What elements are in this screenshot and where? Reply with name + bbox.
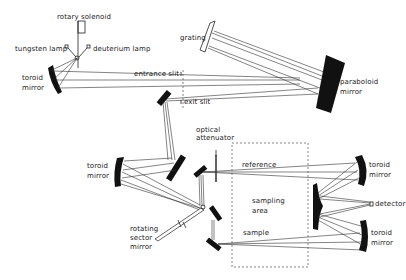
label-left-toroid-1: toroid — [87, 162, 108, 170]
sample-fold-mirror-1 — [209, 205, 222, 221]
label-rotating-sector-3: mirror — [130, 243, 152, 251]
label-rotating-sector-2: sector — [130, 234, 152, 242]
down-rays — [163, 102, 175, 160]
label-optical-attenuator-2: attenuator — [196, 134, 234, 142]
detector-icon — [370, 202, 373, 206]
sample-beam — [218, 233, 362, 250]
label-source-toroid-1: toroid — [22, 74, 43, 82]
label-source-toroid-2: mirror — [22, 84, 44, 92]
label-grating: grating — [180, 34, 206, 42]
fold-mirror — [157, 90, 172, 106]
rotary-solenoid — [78, 21, 85, 68]
label-entrance-slit: entrance slit — [134, 70, 179, 78]
label-paraboloid-1: paraboloid — [340, 78, 378, 86]
label-detector: detector — [375, 200, 405, 208]
label-paraboloid-2: mirror — [340, 88, 362, 96]
reference-fold-mirror — [193, 165, 207, 178]
bottom-right-toroid-mirror — [359, 220, 368, 252]
left-toroid-rays — [121, 158, 203, 210]
slit-marker — [181, 70, 183, 108]
flat-mirror-center — [166, 155, 186, 182]
rotating-sector-mirror — [155, 205, 205, 241]
label-reference: reference — [242, 161, 276, 169]
label-rotating-sector-1: rotating — [130, 225, 158, 233]
label-left-toroid-2: mirror — [87, 172, 109, 180]
sample-fold-mirror-2 — [206, 237, 222, 251]
reference-beam — [203, 163, 358, 180]
label-tungsten-lamp: tungsten lamp — [15, 45, 67, 53]
deuterium-lamp-icon — [79, 45, 90, 57]
label-sample: sample — [243, 229, 269, 237]
label-top-right-toroid-1: toroid — [369, 161, 390, 169]
label-optical-attenuator-1: optical — [196, 126, 220, 134]
label-exit-slit: exit slit — [184, 98, 210, 106]
label-sampling-area-2: area — [252, 207, 268, 215]
label-rotary-solenoid: rotary solenoid — [57, 13, 111, 21]
label-top-right-toroid-2: mirror — [369, 171, 391, 179]
source-toroid-mirror — [48, 65, 62, 94]
label-sampling-area-1: sampling — [252, 197, 285, 205]
label-bottom-right-toroid-1: toroid — [371, 229, 392, 237]
label-bottom-right-toroid-2: mirror — [371, 239, 393, 247]
label-deuterium-lamp: deuterium lamp — [93, 45, 150, 53]
